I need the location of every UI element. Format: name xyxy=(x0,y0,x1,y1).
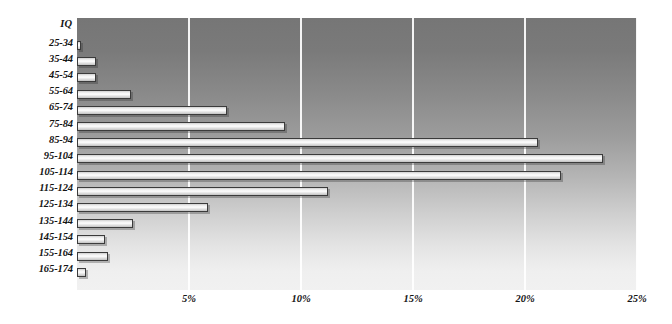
bar-row xyxy=(77,201,637,217)
bar-75-84[interactable] xyxy=(77,122,285,131)
bar-25-34[interactable] xyxy=(77,41,81,50)
y-axis-title: IQ xyxy=(0,18,72,29)
bar-135-144[interactable] xyxy=(77,219,133,228)
bar-165-174[interactable] xyxy=(77,268,86,277)
bar-row xyxy=(77,217,637,233)
y-axis-label-165-174: 165-174 xyxy=(1,263,73,274)
y-axis-label-35-44: 35-44 xyxy=(1,53,73,64)
y-axis-label-115-124: 115-124 xyxy=(1,182,73,193)
x-axis-label-20: 20% xyxy=(502,293,548,304)
bar-row xyxy=(77,39,637,55)
bar-65-74[interactable] xyxy=(77,106,227,115)
bar-row xyxy=(77,250,637,266)
bar-row xyxy=(77,266,637,282)
bar-105-114[interactable] xyxy=(77,171,561,180)
y-axis-label-65-74: 65-74 xyxy=(1,101,73,112)
bar-45-54[interactable] xyxy=(77,73,96,82)
plot-area xyxy=(77,18,637,290)
x-axis-label-5: 5% xyxy=(166,293,212,304)
bar-chart: IQ 25-3435-4445-5455-6465-7475-8485-9495… xyxy=(0,0,672,324)
y-axis-label-25-34: 25-34 xyxy=(1,37,73,48)
x-axis-label-25: 25% xyxy=(614,293,660,304)
y-axis-label-125-134: 125-134 xyxy=(1,198,73,209)
y-axis-label-85-94: 85-94 xyxy=(1,134,73,145)
x-axis-label-10: 10% xyxy=(278,293,324,304)
bar-145-154[interactable] xyxy=(77,235,105,244)
y-axis-label-45-54: 45-54 xyxy=(1,69,73,80)
y-axis: IQ 25-3435-4445-5455-6465-7475-8485-9495… xyxy=(0,18,73,290)
bar-85-94[interactable] xyxy=(77,138,538,147)
bar-row xyxy=(77,55,637,71)
bar-row xyxy=(77,233,637,249)
y-axis-label-105-114: 105-114 xyxy=(1,166,73,177)
bar-row xyxy=(77,88,637,104)
bar-row xyxy=(77,104,637,120)
y-axis-label-155-164: 155-164 xyxy=(1,247,73,258)
y-axis-label-55-64: 55-64 xyxy=(1,85,73,96)
y-axis-label-75-84: 75-84 xyxy=(1,118,73,129)
bar-row xyxy=(77,136,637,152)
bar-95-104[interactable] xyxy=(77,154,603,163)
x-axis: 5%10%15%20%25% xyxy=(0,293,672,315)
bar-row xyxy=(77,169,637,185)
bar-55-64[interactable] xyxy=(77,90,131,99)
x-axis-label-15: 15% xyxy=(390,293,436,304)
y-axis-label-95-104: 95-104 xyxy=(1,150,73,161)
bar-row xyxy=(77,71,637,87)
bar-35-44[interactable] xyxy=(77,57,96,66)
bar-row xyxy=(77,120,637,136)
y-axis-label-145-154: 145-154 xyxy=(1,231,73,242)
bar-row xyxy=(77,185,637,201)
bar-125-134[interactable] xyxy=(77,203,208,212)
bar-row xyxy=(77,152,637,168)
y-axis-label-135-144: 135-144 xyxy=(1,215,73,226)
bar-115-124[interactable] xyxy=(77,187,328,196)
bar-155-164[interactable] xyxy=(77,252,108,261)
